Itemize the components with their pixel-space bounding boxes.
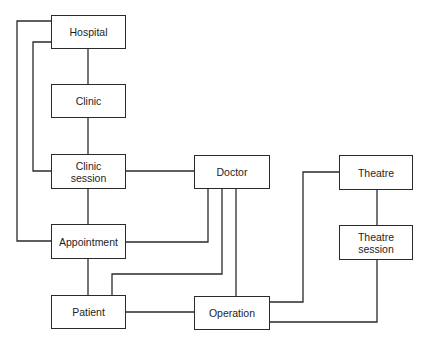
entity-hospital: Hospital — [51, 15, 126, 49]
entity-label: Clinic session — [71, 160, 107, 184]
entity-theatre: Theatre — [339, 155, 413, 190]
entity-label: Operation — [209, 307, 255, 319]
entity-label: Theatre — [358, 167, 394, 179]
link-operation-theatre — [270, 172, 339, 302]
entity-label: Doctor — [217, 166, 248, 178]
link-operation-theatresession — [270, 260, 377, 322]
entity-label: Theatre session — [358, 231, 394, 255]
entity-label: Patient — [72, 306, 105, 318]
entity-label: Appointment — [59, 236, 118, 248]
entity-theatre-session: Theatre session — [339, 225, 413, 260]
entity-label: Hospital — [70, 26, 108, 38]
entity-clinic: Clinic — [51, 84, 126, 118]
entity-relationship-diagram: Hospital Clinic Clinic session Doctor Ap… — [0, 0, 432, 347]
link-doctor-appointment — [126, 189, 208, 242]
entity-appointment: Appointment — [51, 224, 126, 259]
entity-operation: Operation — [194, 296, 270, 330]
entity-label: Clinic — [76, 95, 102, 107]
entity-patient: Patient — [51, 295, 126, 329]
entity-clinic-session: Clinic session — [51, 154, 126, 189]
link-hospital-clinicsession — [33, 42, 51, 171]
link-hospital-appointment — [17, 21, 51, 241]
entity-doctor: Doctor — [194, 155, 270, 189]
